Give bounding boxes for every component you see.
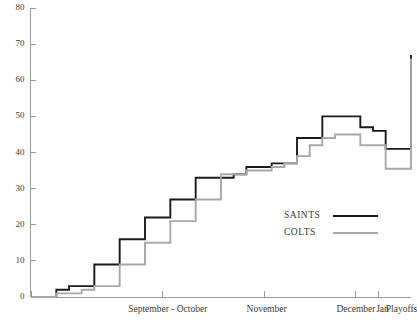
chart-page: 01020304050607080 September - OctoberNov… — [0, 0, 417, 325]
y-tick-label: 30 — [16, 183, 26, 193]
y-tick-label: 0 — [20, 291, 25, 301]
y-tick-label: 60 — [16, 74, 26, 84]
series-line-colts — [31, 59, 411, 297]
legend-label-saints: SAINTS — [284, 210, 320, 220]
x-axis: September - OctoberNovemberDecemberJanPl… — [31, 291, 417, 314]
step-chart: 01020304050607080 September - OctoberNov… — [0, 0, 417, 325]
x-tick-label: December — [336, 304, 376, 314]
y-tick-label: 50 — [16, 110, 26, 120]
y-tick-label: 20 — [16, 219, 26, 229]
legend-label-colts: COLTS — [284, 227, 316, 237]
y-tick-label: 10 — [16, 255, 26, 265]
y-axis: 01020304050607080 — [16, 2, 36, 301]
x-tick-label: November — [247, 304, 288, 314]
y-tick-label: 40 — [16, 147, 26, 157]
y-tick-label: 80 — [16, 2, 26, 12]
series-lines — [31, 55, 411, 297]
x-tick-label: Playoffs — [386, 304, 417, 314]
x-tick-label: September - October — [128, 304, 208, 314]
y-tick-label: 70 — [16, 38, 26, 48]
chart-legend: SAINTSCOLTS — [284, 210, 378, 237]
